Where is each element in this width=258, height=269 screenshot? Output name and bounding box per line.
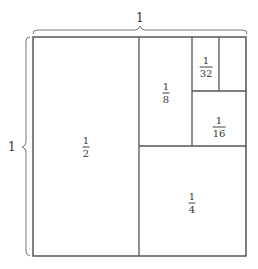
top-dimension-label: 1 <box>136 12 144 24</box>
denominator: 32 <box>200 69 213 79</box>
fraction-label-eighth: 1 8 <box>163 82 170 105</box>
left-dimension-label: 1 <box>8 141 16 153</box>
denominator: 4 <box>189 205 195 215</box>
fraction-label-sixteenth: 1 16 <box>213 116 226 139</box>
unit-square-diagram: 1 1 1 2 1 4 1 8 1 16 1 32 <box>0 0 258 269</box>
fraction-label-quarter: 1 4 <box>189 192 196 215</box>
numerator: 1 <box>216 116 222 126</box>
numerator: 1 <box>163 82 169 92</box>
denominator: 16 <box>213 129 226 139</box>
fraction-label-thirtysecond: 1 32 <box>200 56 213 79</box>
numerator: 1 <box>203 56 209 66</box>
fraction-label-half: 1 2 <box>83 136 90 159</box>
numerator: 1 <box>189 192 195 202</box>
top-brace <box>33 26 247 34</box>
denominator: 2 <box>83 149 89 159</box>
denominator: 8 <box>163 95 169 105</box>
left-brace <box>22 37 30 256</box>
numerator: 1 <box>83 136 89 146</box>
